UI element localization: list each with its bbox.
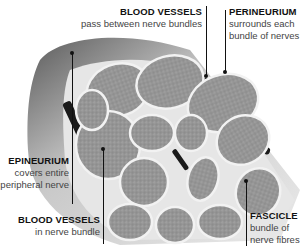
leader-dot	[244, 179, 248, 183]
label-desc: peripheral nerve	[0, 179, 69, 191]
nerve-diagram: BLOOD VESSELS pass between nerve bundles…	[0, 0, 306, 249]
label-desc: nerve fibres	[250, 234, 306, 246]
leader-dot	[223, 70, 227, 74]
label-title: BLOOD VESSELS	[80, 6, 202, 18]
label-title: BLOOD VESSELS	[0, 214, 100, 226]
label-desc: surrounds each	[229, 18, 306, 30]
label-desc: covers entire	[0, 167, 69, 179]
leader-line	[206, 6, 207, 76]
label-blood-vessels-in: BLOOD VESSELS in nerve bundle	[0, 214, 100, 238]
leader-line	[72, 52, 73, 204]
label-desc: in nerve bundle	[0, 226, 100, 238]
leader-dot	[204, 74, 208, 78]
label-fascicle: FASCICLE bundle of nerve fibres	[250, 210, 306, 246]
label-desc: bundle of nerves	[229, 30, 306, 42]
label-epineurium: EPINEURIUM covers entire peripheral nerv…	[0, 155, 69, 191]
leader-line	[103, 148, 104, 244]
leader-line	[246, 180, 247, 246]
label-title: PERINEURIUM	[229, 6, 306, 18]
label-title: EPINEURIUM	[0, 155, 69, 167]
label-desc: pass between nerve bundles	[80, 18, 202, 30]
leader-dot	[101, 147, 105, 151]
leader-dot	[70, 51, 74, 55]
label-desc: bundle of	[250, 222, 306, 234]
leader-line	[225, 10, 226, 72]
label-title: FASCICLE	[250, 210, 306, 222]
label-perineurium: PERINEURIUM surrounds each bundle of ner…	[229, 6, 306, 42]
label-blood-vessels-between: BLOOD VESSELS pass between nerve bundles	[80, 6, 202, 30]
